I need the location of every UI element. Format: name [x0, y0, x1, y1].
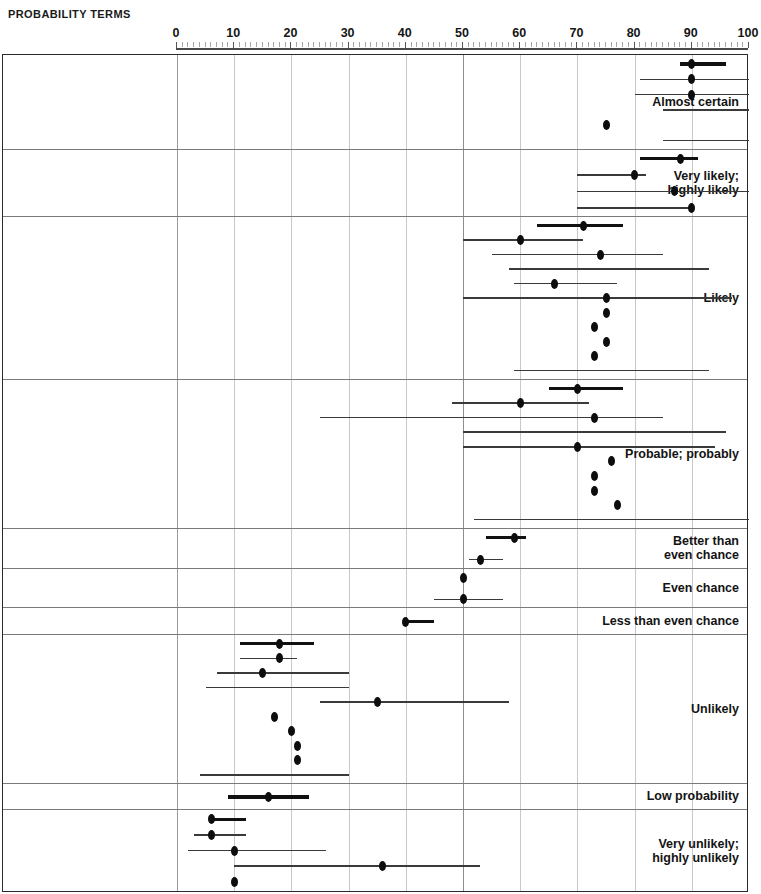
tick-mark — [639, 42, 640, 47]
tick-mark — [725, 42, 726, 47]
tick-mark — [468, 42, 469, 47]
data-row — [3, 471, 747, 481]
range-line — [492, 254, 664, 256]
range-line — [463, 431, 726, 433]
tick-mark — [599, 42, 600, 47]
tick-mark — [628, 42, 629, 47]
tick-mark — [685, 42, 686, 47]
point-estimate-dot — [591, 351, 598, 361]
tick-mark — [273, 42, 274, 47]
point-estimate-dot — [551, 279, 558, 289]
tick-mark — [187, 42, 188, 47]
x-axis-tick-labels: 0102030405060708090100 — [0, 26, 761, 42]
point-estimate-dot — [288, 726, 295, 736]
range-line — [320, 701, 509, 703]
point-estimate-dot — [517, 398, 524, 408]
data-row — [3, 154, 747, 164]
tick-mark — [456, 42, 457, 47]
point-estimate-dot — [460, 573, 467, 583]
data-row — [3, 120, 747, 130]
tick-mark — [245, 42, 246, 47]
point-estimate-dot — [294, 755, 301, 765]
tick-mark — [668, 42, 669, 47]
tick-mark — [216, 42, 217, 47]
data-row — [3, 792, 747, 802]
tick-mark — [697, 42, 698, 47]
tick-mark — [296, 42, 297, 47]
point-estimate-dot — [688, 59, 695, 69]
point-estimate-dot — [477, 555, 484, 565]
data-row — [3, 203, 747, 213]
tick-mark — [205, 42, 206, 47]
tick-mark — [268, 42, 269, 47]
tick-mark — [742, 42, 743, 47]
x-tick-80: 80 — [627, 26, 641, 40]
tick-mark — [239, 42, 240, 47]
data-row — [3, 500, 747, 510]
tick-mark — [433, 42, 434, 47]
range-line — [663, 140, 749, 142]
x-tick-100: 100 — [738, 26, 759, 40]
data-row — [3, 279, 747, 289]
tick-mark — [388, 42, 389, 47]
point-estimate-dot — [231, 846, 238, 856]
data-row — [3, 442, 747, 452]
tick-mark — [285, 42, 286, 47]
range-line — [486, 536, 526, 539]
point-estimate-dot — [671, 186, 678, 196]
point-estimate-dot — [580, 221, 587, 231]
data-row — [3, 726, 747, 736]
data-row — [3, 413, 747, 423]
tick-mark — [325, 42, 326, 47]
section-probable-probably: Probable; probably — [3, 380, 747, 529]
data-row — [3, 486, 747, 496]
data-row — [3, 846, 747, 856]
point-estimate-dot — [597, 250, 604, 260]
data-row — [3, 235, 747, 245]
tick-mark — [308, 42, 309, 47]
section-label: Even chance — [575, 581, 747, 595]
range-line — [469, 559, 503, 561]
data-row — [3, 308, 747, 318]
tick-mark — [250, 42, 251, 47]
tick-mark — [525, 42, 526, 47]
section-very-likely-highly-likely: Very likely; highly likely — [3, 150, 747, 217]
section-almost-certain: Almost certain — [3, 55, 747, 150]
point-estimate-dot — [677, 154, 684, 164]
data-row — [3, 186, 747, 196]
range-line — [514, 370, 708, 372]
range-line — [463, 446, 715, 448]
range-line — [240, 658, 297, 660]
tick-mark — [496, 42, 497, 47]
x-tick-50: 50 — [455, 26, 469, 40]
data-row — [3, 594, 747, 604]
data-row — [3, 366, 747, 376]
point-estimate-dot — [208, 814, 215, 824]
x-axis-line — [176, 48, 748, 50]
point-estimate-dot — [259, 668, 266, 678]
point-estimate-dot — [688, 90, 695, 100]
tick-mark — [554, 42, 555, 47]
tick-mark — [262, 42, 263, 47]
point-estimate-dot — [511, 533, 518, 543]
tick-mark — [645, 42, 646, 47]
section-very-unlikely-highly-unlikely: Very unlikely; highly unlikely — [3, 810, 747, 891]
point-estimate-dot — [402, 617, 409, 627]
point-estimate-dot — [294, 741, 301, 751]
point-estimate-dot — [276, 639, 283, 649]
data-row — [3, 351, 747, 361]
x-tick-70: 70 — [569, 26, 583, 40]
tick-mark — [485, 42, 486, 47]
point-estimate-dot — [591, 413, 598, 423]
data-row — [3, 814, 747, 824]
tick-mark — [422, 42, 423, 47]
tick-mark — [319, 42, 320, 47]
tick-mark — [719, 42, 720, 47]
data-row — [3, 533, 747, 543]
tick-mark — [611, 42, 612, 47]
range-line — [577, 207, 691, 209]
range-line — [217, 672, 349, 674]
tick-mark — [365, 42, 366, 47]
data-row — [3, 456, 747, 466]
tick-mark — [302, 42, 303, 47]
